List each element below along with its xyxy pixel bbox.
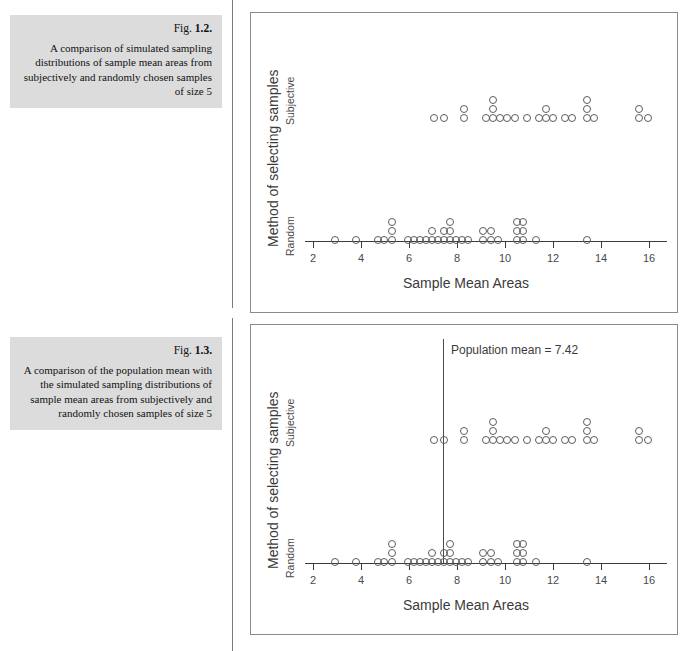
data-point [460,436,468,444]
data-point [644,114,652,122]
data-point [489,418,497,426]
data-point [460,105,468,113]
fig-prefix-2: Fig. [174,344,195,356]
data-point [446,227,454,235]
data-point [388,549,396,557]
data-point [511,114,519,122]
data-point [388,540,396,548]
data-point [519,540,527,548]
plot-area-1-3: Method of selecting samples Subjective R… [251,325,677,634]
data-point [464,558,472,566]
caption-fig-1-3: Fig. 1.3. A comparison of the population… [10,337,222,430]
caption-text-1-3: A comparison of the population mean with… [20,363,212,421]
data-point [542,427,550,435]
data-point [388,558,396,566]
data-point [519,558,527,566]
data-point [388,227,396,235]
data-point [380,558,388,566]
data-point [644,436,652,444]
data-point [519,218,527,226]
data-point [494,236,502,244]
data-point [430,436,438,444]
data-point [446,218,454,226]
data-point [549,114,557,122]
data-point [635,436,643,444]
dot-layer-1-2 [251,13,677,312]
data-point [583,558,591,566]
data-point [380,236,388,244]
data-point [523,436,531,444]
fig-number-1-2: Fig. 1.2. [20,22,212,35]
data-point [489,105,497,113]
data-point [352,236,360,244]
data-point [460,427,468,435]
page-root: Fig. 1.2. A comparison of simulated samp… [0,0,689,651]
data-point [523,114,531,122]
plot-area-1-2: Method of selecting samples Subjective R… [251,13,677,312]
caption-text-1-2: A comparison of simulated sampling distr… [20,41,212,99]
data-point [440,436,448,444]
figure-panel-1-2: Method of selecting samples Subjective R… [250,12,678,313]
fig-number-value: 1.2. [195,22,212,34]
data-point [635,114,643,122]
data-point [568,114,576,122]
figure-panel-1-3: Method of selecting samples Subjective R… [250,324,678,635]
data-point [635,427,643,435]
data-point [583,96,591,104]
data-point [583,105,591,113]
data-point [487,227,495,235]
data-point [489,427,497,435]
data-point [331,558,339,566]
data-point [430,114,438,122]
data-point [519,236,527,244]
data-point [542,105,550,113]
divider-rule-bottom [232,318,233,651]
data-point [331,236,339,244]
data-point [464,236,472,244]
caption-fig-1-2: Fig. 1.2. A comparison of simulated samp… [10,15,222,108]
fig-number-1-3: Fig. 1.3. [20,344,212,357]
data-point [428,227,436,235]
data-point [511,436,519,444]
fig-prefix: Fig. [174,22,195,34]
data-point [388,218,396,226]
data-point [590,436,598,444]
data-point [549,436,557,444]
data-point [446,549,454,557]
data-point [352,558,360,566]
data-point [494,558,502,566]
data-point [583,427,591,435]
data-point [583,418,591,426]
data-point [519,227,527,235]
data-point [635,105,643,113]
data-point [568,436,576,444]
data-point [590,114,598,122]
data-point [446,540,454,548]
divider-rule-top [232,0,233,308]
data-point [460,114,468,122]
data-point [440,114,448,122]
data-point [583,236,591,244]
data-point [388,236,396,244]
fig-number-value-2: 1.3. [195,344,212,356]
dot-layer-1-3 [251,325,677,634]
data-point [489,96,497,104]
data-point [519,549,527,557]
data-point [428,549,436,557]
data-point [487,549,495,557]
data-point [532,236,540,244]
data-point [532,558,540,566]
